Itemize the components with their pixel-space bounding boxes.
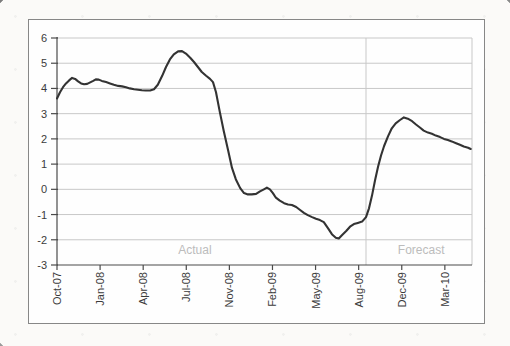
- y-tick-label: -2: [17, 234, 47, 246]
- y-tick-label: 0: [17, 183, 47, 195]
- x-tick-label: Feb-09: [266, 272, 279, 307]
- annotation-forecast: Forecast: [381, 243, 461, 257]
- page-background: 6543210-1-2-3Oct-07Jan-08Apr-08Jul-08Nov…: [0, 0, 510, 346]
- x-tick-label: Oct-07: [51, 272, 64, 305]
- y-tick-label: 4: [17, 82, 47, 94]
- chart-canvas: [0, 0, 510, 346]
- scan-artifact-top-left: [0, 0, 9, 9]
- y-tick-label: -1: [17, 209, 47, 221]
- y-tick-label: 5: [17, 57, 47, 69]
- series-line-value: [57, 51, 471, 238]
- y-tick-label: 3: [17, 108, 47, 120]
- x-tick-label: May-09: [310, 272, 323, 309]
- y-tick-label: 6: [17, 32, 47, 44]
- x-tick-label: Jan-08: [94, 272, 107, 306]
- x-tick-label: Jul-08: [180, 272, 193, 302]
- annotation-actual: Actual: [155, 243, 235, 257]
- y-tick-label: -3: [17, 259, 47, 271]
- x-tick-label: Dec-09: [396, 272, 409, 307]
- x-tick-label: Apr-08: [137, 272, 150, 305]
- x-tick-label: Aug-09: [353, 272, 366, 307]
- x-tick-label: Mar-10: [439, 272, 452, 307]
- y-tick-label: 1: [17, 158, 47, 170]
- scan-artifact-bottom-left: [0, 340, 5, 346]
- y-tick-label: 2: [17, 133, 47, 145]
- scan-artifact-top-right: [504, 0, 510, 5]
- x-tick-label: Nov-08: [223, 272, 236, 307]
